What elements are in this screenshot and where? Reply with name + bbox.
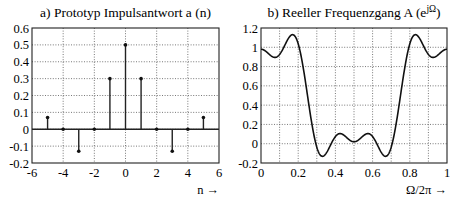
stem-marker [93, 127, 97, 131]
svg-text:0: 0 [252, 137, 258, 151]
svg-text:0.6: 0.6 [365, 166, 381, 180]
svg-text:-6: -6 [27, 166, 37, 180]
frequency-response-chart: b) Reeller Frequenzgang A (ejΩ)1.210.80.… [238, 4, 450, 197]
x-axis-label: Ω/2π → [406, 183, 447, 197]
svg-text:2: 2 [154, 166, 160, 180]
y-axis-ticks: 1.210.80.60.40.20-0.2 [238, 22, 259, 171]
x-axis-ticks: 00.20.40.60.81 [258, 166, 450, 180]
svg-text:6: 6 [216, 166, 222, 180]
stem-marker [170, 149, 174, 153]
y-axis-ticks: 0.60.50.40.30.20.10-0.1-0.2 [9, 22, 30, 171]
svg-text:0.8: 0.8 [402, 166, 418, 180]
svg-text:0.4: 0.4 [13, 55, 29, 69]
svg-text:0.2: 0.2 [242, 118, 258, 132]
svg-text:0.6: 0.6 [242, 79, 258, 93]
svg-text:0.1: 0.1 [13, 106, 29, 120]
svg-text:1.2: 1.2 [242, 22, 258, 36]
svg-text:1: 1 [444, 166, 450, 180]
stem-marker [77, 149, 81, 153]
grid-lines [261, 28, 447, 163]
svg-text:0: 0 [122, 166, 128, 180]
svg-text:0: 0 [258, 166, 264, 180]
svg-text:0.5: 0.5 [13, 38, 29, 52]
svg-text:0.6: 0.6 [13, 22, 29, 36]
svg-text:0.3: 0.3 [13, 72, 29, 86]
x-axis-label: n → [197, 183, 219, 197]
svg-text:-0.1: -0.1 [9, 140, 29, 154]
stem-marker [186, 127, 190, 131]
svg-text:0.4: 0.4 [328, 166, 344, 180]
chart-title: b) Reeller Frequenzgang A (ejΩ) [267, 4, 440, 20]
svg-text:0.2: 0.2 [13, 89, 29, 103]
stem-series [46, 43, 205, 153]
svg-text:0.8: 0.8 [242, 60, 258, 74]
stem-marker [202, 116, 206, 120]
stem-marker [155, 127, 159, 131]
svg-text:4: 4 [185, 166, 192, 180]
stem-marker [139, 77, 143, 81]
svg-text:-2: -2 [89, 166, 99, 180]
chart-title: a) Prototyp Impulsantwort a (n) [40, 5, 211, 20]
svg-text:0.2: 0.2 [290, 166, 306, 180]
stem-marker [61, 127, 65, 131]
svg-text:1: 1 [252, 41, 258, 55]
x-axis-ticks: -6-4-20246 [27, 166, 222, 180]
stem-marker [46, 116, 50, 120]
stem-marker [108, 77, 112, 81]
stem-marker [124, 43, 128, 47]
chart-figure: a) Prototyp Impulsantwort a (n)0.60.50.4… [0, 0, 458, 199]
impulse-response-chart: a) Prototyp Impulsantwort a (n)0.60.50.4… [9, 5, 222, 197]
svg-text:-0.2: -0.2 [238, 157, 258, 171]
svg-text:0.4: 0.4 [242, 99, 258, 113]
svg-text:0: 0 [23, 123, 29, 137]
svg-text:-4: -4 [58, 166, 69, 180]
